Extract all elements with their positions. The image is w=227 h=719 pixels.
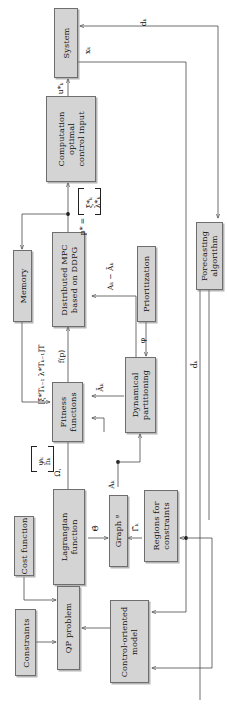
block-forecasting-line1: Forecasting	[200, 231, 210, 281]
block-forecasting-line2: algorithm	[210, 231, 220, 281]
block-prioritization-label: Prioritization	[142, 256, 152, 312]
signal-label-Abar-k: Āₖ	[96, 383, 105, 391]
signal-label-p-star: p* =	[78, 218, 87, 235]
block-graph[interactable]: Graph ᵍ	[109, 495, 128, 567]
block-memory-label: Memory	[18, 268, 28, 303]
block-control-oriented-model[interactable]: Control-oriented model	[110, 600, 149, 683]
signal-label-phi: φ	[138, 338, 147, 343]
block-system[interactable]: System	[54, 8, 78, 78]
psi-h-vector-bracket	[31, 446, 53, 471]
block-fitness-functions[interactable]: Fitness functions	[52, 382, 83, 442]
signal-label-memory-feedback: [ξ*Tₖ₋₁ λ*Tₖ₋₁]T	[37, 345, 46, 405]
block-system-label: System	[61, 28, 71, 59]
block-graph-label: Graph ᵍ	[114, 515, 124, 547]
signal-label-gamma-hat-k: Γ̂ₖ	[131, 523, 140, 531]
block-lagrangian-line1: Lagrangian	[59, 513, 69, 562]
block-dynamical-partitioning-line2: partitioning	[141, 370, 151, 420]
p-star-vector-bracket	[78, 188, 100, 214]
block-fitness-line1: Fitness	[58, 392, 68, 431]
block-forecasting-algorithm[interactable]: Forecasting algorithm	[196, 222, 223, 290]
block-cost-function[interactable]: Cost function	[14, 516, 34, 576]
block-fitness-line2: functions	[68, 392, 78, 431]
block-lagrangian-function[interactable]: Lagrangian function	[53, 489, 85, 585]
block-qp-problem-label: QP problem	[64, 603, 74, 653]
block-regions-line2: constraints	[161, 502, 171, 551]
signal-label-x-k: xₖ	[83, 47, 92, 54]
block-computation-line2: optimal	[66, 111, 76, 166]
block-qp-problem[interactable]: QP problem	[57, 586, 80, 670]
block-distributed-mpc-line2: based on DDPG	[69, 244, 79, 315]
block-control-oriented-model-line1: Control-oriented	[120, 606, 130, 677]
block-memory[interactable]: Memory	[13, 250, 32, 322]
block-computation-line3: control input	[76, 111, 86, 166]
signal-label-A-k: Aₖ	[107, 480, 116, 488]
signal-label-d-k: dₖ	[139, 19, 148, 27]
block-computation-optimal-control-input[interactable]: Computation optimal control input	[46, 96, 96, 182]
signal-label-d-hat-k: d̂ₖ	[190, 361, 199, 369]
signal-label-theta-hat: Θ̂	[91, 525, 100, 531]
block-dynamical-partitioning-line1: Dynamical	[131, 370, 141, 420]
signal-label-u-star-k: u*ₖ	[56, 83, 65, 94]
block-constraints-label: Constraints	[21, 618, 31, 667]
block-constraints[interactable]: Constraints	[15, 609, 36, 676]
block-dynamical-partitioning[interactable]: Dynamical partitioning	[125, 357, 156, 433]
signal-label-Ak-minus-Abark: Aₖ − Āₖ	[106, 263, 115, 291]
signal-label-f-p: f(p)	[57, 350, 66, 364]
block-control-oriented-model-line2: model	[130, 606, 140, 677]
signal-label-omega: Ω,	[53, 468, 62, 477]
block-regions-for-constraints[interactable]: Regions for constraints	[144, 490, 178, 562]
block-lagrangian-line2: function	[69, 513, 79, 562]
block-diagram-canvas: System Computation optimal control input…	[0, 0, 227, 719]
block-cost-function-label: Cost function	[19, 518, 29, 575]
block-prioritization[interactable]: Prioritization	[137, 246, 156, 322]
block-regions-line1: Regions for	[151, 502, 161, 551]
block-distributed-mpc-ddpg[interactable]: Distributed MPC based on DDPG	[52, 232, 85, 327]
block-computation-line1: Computation	[56, 111, 66, 166]
block-distributed-mpc-line1: Distributed MPC	[59, 244, 69, 315]
